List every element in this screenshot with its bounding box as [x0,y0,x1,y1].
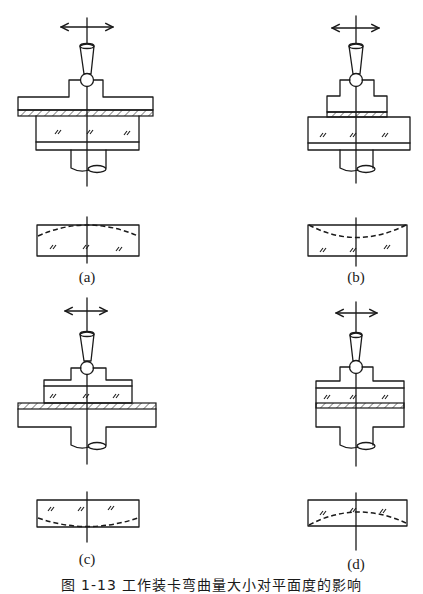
panel-b-result [308,218,407,266]
panel-a-result [37,217,139,263]
deformation-curve [309,225,406,238]
hatched-layer [18,403,156,409]
panel-label-b: (b) [347,269,365,286]
ball-joint-icon [81,74,94,87]
result-workpiece [37,500,139,527]
figure-caption: 图 1-13 工作装卡弯曲量大小对平面度的影响 [61,574,363,594]
ball-joint-icon [350,361,363,374]
panel-label-c: (c) [79,551,96,568]
result-workpiece [37,225,139,256]
panel-label-a: (a) [79,269,96,286]
deformation-curve [38,518,138,527]
ball-joint-icon [81,362,94,375]
panel-d-result [308,493,407,550]
hatched-layer [18,110,153,116]
panel-c-result [37,492,139,542]
panel-a-setup [18,18,153,186]
glass-marks [55,130,130,135]
hatched-layer [316,403,404,408]
panel-c-setup [18,298,156,464]
panel-d-setup [316,302,404,466]
deformation-curve [38,225,138,236]
panel-b-setup [308,16,410,183]
result-workpiece [308,500,407,526]
hatched-layer [327,112,387,117]
panel-label-d: (d) [347,556,365,573]
ball-joint-icon [350,74,363,87]
